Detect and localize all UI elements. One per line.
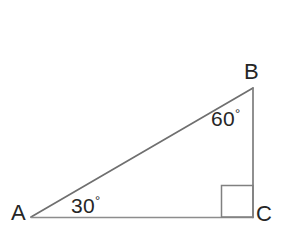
vertex-label-b: B (244, 61, 259, 83)
degree-symbol-a: ° (95, 193, 100, 208)
angle-value-b: 60 (211, 107, 235, 130)
triangle-figure: A B C 30° 60° (0, 0, 285, 245)
vertex-label-c: C (256, 203, 272, 225)
angle-label-a: 30° (71, 194, 100, 216)
degree-symbol-b: ° (235, 106, 240, 121)
angle-value-a: 30 (71, 194, 95, 217)
angle-label-b: 60° (211, 107, 240, 129)
triangle-drawing (0, 0, 285, 245)
right-angle-marker-icon (222, 186, 254, 218)
vertex-label-a: A (11, 202, 26, 224)
